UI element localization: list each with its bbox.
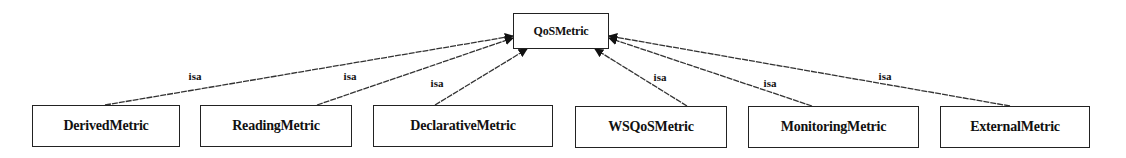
node-label-monitoringmetric: MonitoringMetric xyxy=(781,119,887,135)
node-label-declarativemetric: DeclarativeMetric xyxy=(410,118,515,134)
isa-label: isa xyxy=(654,71,667,83)
node-qosmetric: QoSMetric xyxy=(513,13,609,49)
node-derivedmetric: DerivedMetric xyxy=(32,105,180,147)
node-monitoringmetric: MonitoringMetric xyxy=(748,106,919,148)
isa-edge-wsqosmetric xyxy=(595,49,687,106)
node-label-wsqosmetric: WSQoSMetric xyxy=(608,119,694,135)
isa-edge-declarativemetric xyxy=(435,49,527,105)
isa-label: isa xyxy=(189,70,202,82)
node-readingmetric: ReadingMetric xyxy=(200,105,352,147)
isa-label: isa xyxy=(879,70,892,82)
isa-edge-monitoringmetric xyxy=(609,38,812,106)
node-label-derivedmetric: DerivedMetric xyxy=(63,118,148,134)
node-label-readingmetric: ReadingMetric xyxy=(232,118,320,134)
node-wsqosmetric: WSQoSMetric xyxy=(575,106,727,148)
isa-label: isa xyxy=(764,77,777,89)
node-declarativemetric: DeclarativeMetric xyxy=(373,105,553,147)
node-label-externalmetric: ExternalMetric xyxy=(970,119,1060,135)
isa-label: isa xyxy=(431,77,444,89)
class-hierarchy-diagram: QoSMetric DerivedMetric ReadingMetric De… xyxy=(0,0,1126,158)
isa-edge-externalmetric xyxy=(609,36,1010,106)
isa-label: isa xyxy=(344,70,357,82)
node-label-qosmetric: QoSMetric xyxy=(534,24,589,39)
node-externalmetric: ExternalMetric xyxy=(940,106,1090,148)
